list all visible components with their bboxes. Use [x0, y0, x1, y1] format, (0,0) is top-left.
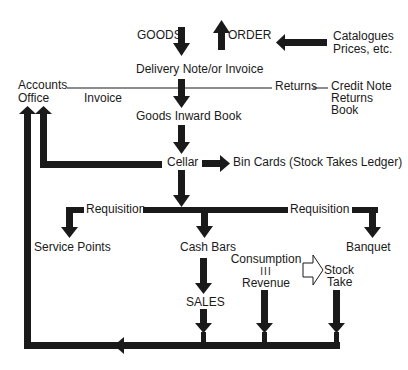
bottom-left-arrowhead-icon	[114, 337, 124, 354]
cellar-down-arrow-icon	[173, 170, 190, 207]
order-label: ORDER	[228, 29, 271, 42]
catalogues-label-line2: Prices, etc.	[333, 43, 392, 56]
goods-inward-book-label: Goods Inward Book	[136, 110, 241, 123]
revenue-label: Revenue	[228, 277, 304, 290]
cash-bars-arrow-icon	[196, 210, 213, 238]
inward-to-cellar-arrow-icon	[173, 125, 190, 154]
revenue-down-arrow-icon	[256, 290, 273, 342]
outer-return-arrow-icon	[19, 106, 36, 349]
returns-label: Returns	[275, 80, 317, 93]
flow-diagram: GOODS ORDER Catalogues Prices, etc. Deli…	[0, 0, 408, 370]
requisition-left-label: Requisition	[86, 203, 145, 216]
requisition-bar	[143, 207, 288, 213]
sales-down-arrow-icon	[195, 309, 212, 342]
requisition-right-label: Requisition	[290, 203, 349, 216]
credit-note-label-line3: Book	[331, 104, 358, 117]
invoice-label: Invoice	[84, 92, 122, 105]
bottom-return-line	[24, 342, 340, 349]
sales-label: SALES	[186, 296, 225, 309]
catalogues-arrow-icon	[276, 34, 327, 51]
delivery-to-inward-arrow-icon	[173, 79, 190, 108]
banquet-label: Banquet	[346, 241, 391, 254]
goods-label: GOODS	[137, 29, 182, 42]
delivery-note-label: Delivery Note/or Invoice	[136, 63, 263, 76]
service-points-label: Service Points	[34, 241, 111, 254]
stock-take-label-line2: Take	[327, 276, 352, 289]
bin-cards-label: Bin Cards (Stock Takes Ledger)	[233, 156, 402, 169]
hollow-arrow-icon	[303, 255, 323, 285]
cellar-label: Cellar	[167, 156, 198, 169]
accounts-label-line2: Office	[18, 92, 49, 105]
bin-cards-arrow-icon	[202, 155, 230, 172]
stock-take-down-arrow-icon	[328, 290, 345, 342]
cash-bars-to-sales-arrow-icon	[195, 258, 212, 294]
